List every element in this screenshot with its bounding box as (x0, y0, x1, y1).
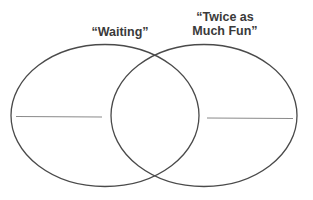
left-answer-line[interactable] (16, 117, 102, 118)
right-answer-line[interactable] (207, 118, 293, 119)
left-circle (11, 45, 199, 187)
venn-diagram (0, 0, 313, 200)
right-circle (111, 45, 297, 187)
